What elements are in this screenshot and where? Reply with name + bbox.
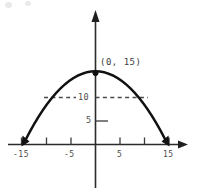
x-axis-label-pos15: 15	[163, 150, 174, 159]
vertex-point-label: (0, 15)	[100, 57, 141, 67]
graph-canvas	[0, 0, 197, 193]
parabola-figure: (0, 15) 10 5 -15 -5 5 15	[0, 0, 197, 193]
x-axis-label-neg15: -15	[13, 150, 29, 159]
y-axis-arrowhead-icon	[92, 10, 100, 22]
x-axis-label-neg5: -5	[64, 150, 75, 159]
x-axis-label-pos5: 5	[117, 150, 122, 159]
y-axis-label-10: 10	[78, 93, 89, 102]
x-axis-arrowhead-icon	[178, 141, 188, 149]
y-axis-label-5: 5	[86, 116, 92, 125]
vertex-point-marker	[93, 70, 98, 75]
